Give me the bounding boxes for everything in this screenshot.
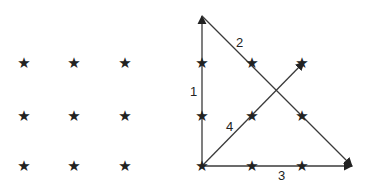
- star-icon: ★: [295, 107, 308, 125]
- star-icon: ★: [67, 107, 80, 125]
- star-icon: ★: [195, 157, 208, 175]
- arrow-label-1: 1: [190, 84, 197, 99]
- arrow-label-3: 3: [278, 168, 285, 183]
- star-icon: ★: [245, 107, 258, 125]
- arrow-label-2: 2: [236, 35, 243, 50]
- star-icon: ★: [67, 157, 80, 175]
- star-icon: ★: [295, 157, 308, 175]
- arrow-path: [202, 16, 352, 166]
- right-star-grid: ★★★★★★★★★: [195, 54, 308, 175]
- star-icon: ★: [245, 157, 258, 175]
- star-icon: ★: [295, 54, 308, 72]
- nine-dot-diagram: ★★★★★★★★★ ★★★★★★★★★ 1234: [0, 0, 377, 191]
- star-icon: ★: [245, 54, 258, 72]
- star-icon: ★: [195, 54, 208, 72]
- star-icon: ★: [17, 107, 30, 125]
- star-icon: ★: [118, 157, 131, 175]
- star-icon: ★: [195, 107, 208, 125]
- star-icon: ★: [67, 54, 80, 72]
- star-icon: ★: [118, 54, 131, 72]
- star-icon: ★: [17, 54, 30, 72]
- star-icon: ★: [17, 157, 30, 175]
- left-star-grid: ★★★★★★★★★: [17, 54, 131, 175]
- arrow-label-4: 4: [226, 119, 233, 134]
- star-icon: ★: [118, 107, 131, 125]
